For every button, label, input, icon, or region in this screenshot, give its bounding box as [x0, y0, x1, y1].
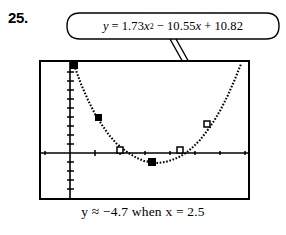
data-point-filled [95, 114, 102, 121]
data-points-open [117, 121, 210, 153]
equation-lhs: y [103, 19, 109, 34]
equation-constant: 10.82 [214, 19, 243, 34]
parabola-graph [41, 62, 248, 198]
equation-operator-minus: − [157, 19, 164, 34]
equation-text: y = 1.73x2 − 10.55x + 10.82 [66, 12, 280, 40]
trace-point-open [177, 147, 183, 153]
trace-point-open [117, 147, 123, 153]
calculator-graph-screen [39, 60, 250, 200]
equation-equals: = [112, 19, 119, 34]
answer-caption: y ≈ −4.7 when x = 2.5 [0, 204, 286, 220]
data-points-filled [70, 62, 156, 166]
data-point-filled [148, 158, 156, 166]
equation-term-a-exponent: 2 [150, 22, 154, 31]
data-point-filled [70, 62, 78, 69]
equation-coef-b: 10.55 [167, 19, 196, 34]
problem-number: 25. [8, 10, 28, 25]
equation-operator-plus: + [204, 19, 211, 34]
trace-point-open [204, 121, 210, 127]
equation-coef-a: 1.73 [122, 19, 144, 34]
equation-term-b-var: x [196, 19, 202, 34]
parabola-curve [74, 64, 241, 163]
equation-callout: y = 1.73x2 − 10.55x + 10.82 [66, 12, 280, 40]
